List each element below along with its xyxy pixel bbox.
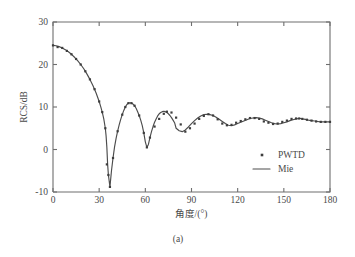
- x-tick-label: 180: [323, 195, 338, 205]
- rcs-vs-angle-chart: 0306090120150180-100102030 PWTDMie 角度/(°…: [0, 0, 355, 257]
- x-axis-title: 角度/(°): [175, 208, 208, 220]
- x-tick-label: 150: [277, 195, 292, 205]
- legend-label: Mie: [278, 164, 293, 174]
- x-tick-label: 120: [231, 195, 246, 205]
- figure-container: 0306090120150180-100102030 PWTDMie 角度/(°…: [0, 0, 355, 257]
- x-tick-label: 90: [187, 195, 197, 205]
- y-tick-label: 10: [39, 102, 49, 112]
- y-tick-label: 20: [39, 60, 49, 70]
- y-tick-label: 0: [43, 145, 48, 155]
- figure-caption: (a): [173, 234, 184, 245]
- y-axis-title: RCS/dB: [19, 91, 29, 123]
- x-tick-label: 60: [141, 195, 151, 205]
- x-tick-label: 0: [51, 195, 56, 205]
- y-tick-label: -10: [35, 187, 48, 197]
- legend-label: PWTD: [278, 150, 305, 160]
- x-tick-label: 30: [94, 195, 104, 205]
- legend-marker-pwtd: [261, 154, 264, 157]
- y-tick-label: 30: [39, 17, 49, 27]
